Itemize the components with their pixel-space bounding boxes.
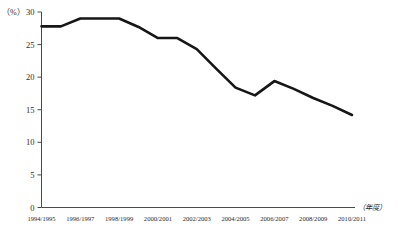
- line-chart: 051015202530 （%） 1994/19951996/19971998/…: [0, 0, 398, 235]
- x-axis-unit-label: （年度）: [358, 203, 386, 212]
- y-tick-label: 15: [26, 105, 35, 115]
- x-tick-label: 2010/2011: [338, 215, 366, 222]
- y-tick-label: 5: [30, 170, 34, 180]
- x-tick-label: 2004/2005: [221, 215, 250, 222]
- x-tick-label: 2000/2001: [144, 215, 172, 222]
- y-tick-label: 10: [26, 137, 35, 147]
- y-axis-group: 051015202530 （%）: [2, 7, 42, 213]
- x-tick-label: 2006/2007: [260, 215, 289, 222]
- y-tick-marks: [38, 12, 42, 208]
- y-tick-label: 30: [26, 7, 35, 17]
- x-tick-label: 1998/1999: [105, 215, 134, 222]
- y-tick-label: 0: [30, 203, 34, 213]
- x-tick-labels: 1994/19951996/19971998/19992000/20012002…: [27, 215, 366, 222]
- y-tick-label: 25: [26, 40, 35, 50]
- y-axis-unit-label: （%）: [2, 8, 25, 17]
- chart-canvas: 051015202530 （%） 1994/19951996/19971998/…: [0, 0, 398, 235]
- y-tick-labels: 051015202530: [26, 7, 35, 213]
- x-axis-group: 1994/19951996/19971998/19992000/20012002…: [27, 203, 386, 222]
- x-tick-label: 1996/1997: [66, 215, 95, 222]
- x-tick-label: 2008/2009: [299, 215, 328, 222]
- x-tick-label: 1994/1995: [27, 215, 56, 222]
- y-tick-label: 20: [26, 72, 35, 82]
- data-series-line: [42, 19, 353, 115]
- x-tick-label: 2002/2003: [183, 215, 212, 222]
